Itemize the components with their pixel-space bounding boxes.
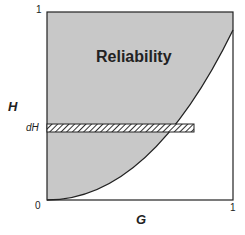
dH-strip [47, 124, 194, 132]
x-max-tick: 1 [230, 202, 236, 213]
origin-tick: 0 [35, 200, 41, 211]
y-max-tick: 1 [36, 4, 42, 15]
x-axis-label: G [136, 212, 146, 227]
region-label: Reliability [96, 48, 172, 66]
strip-label: dH [26, 122, 39, 133]
reliability-region [47, 12, 233, 200]
y-axis-label: H [8, 99, 17, 114]
